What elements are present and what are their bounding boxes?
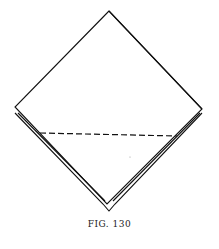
front-layer — [15, 11, 202, 204]
back-layer — [15, 113, 202, 211]
front-edge-top-right — [109, 11, 202, 109]
back-layer-inner-right — [113, 113, 200, 201]
speck — [129, 156, 130, 157]
dashed-fold-line — [40, 133, 177, 136]
figure-caption: FIG. 130 — [0, 219, 219, 229]
figure: FIG. 130 — [0, 0, 219, 249]
fold-diagram — [0, 0, 219, 249]
front-diamond — [15, 11, 202, 204]
back-layer-outline — [15, 113, 202, 211]
